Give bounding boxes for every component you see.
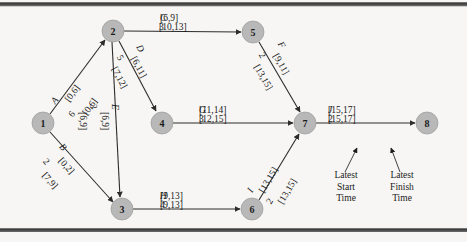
legend-latest-start-line2: Start xyxy=(322,182,370,194)
legend-latest-start-line1: Latest xyxy=(322,170,370,182)
edge-E-latest: [6,9] xyxy=(78,112,88,130)
latest-finish-pointer xyxy=(391,148,400,172)
edge-G-latest: [12,15] xyxy=(199,115,227,125)
node-5[interactable]: 5 xyxy=(242,21,264,43)
node-8-label: 8 xyxy=(425,118,430,129)
legend-latest-start-line3: Time xyxy=(322,193,370,205)
node-5-label: 5 xyxy=(251,27,256,38)
legend-latest-start: Latest Start Time xyxy=(322,170,370,205)
latest-start-pointer xyxy=(345,148,357,172)
edge-H-latest: [9,13] xyxy=(160,201,183,211)
legend-latest-finish-line1: Latest xyxy=(378,170,426,182)
node-1[interactable]: 1 xyxy=(32,112,54,134)
legend-pointer-group xyxy=(345,148,400,172)
node-4[interactable]: 4 xyxy=(151,112,173,134)
node-3-label: 3 xyxy=(120,204,125,215)
edge-E-label: E [6,9] 3 [6,9] xyxy=(71,92,109,110)
node-7-label: 7 xyxy=(303,118,308,129)
node-3[interactable]: 3 xyxy=(111,198,133,220)
edge-J-latest: [15,17] xyxy=(328,115,356,125)
node-7[interactable]: 7 xyxy=(294,112,316,134)
node-4-label: 4 xyxy=(160,118,165,129)
node-1-label: 1 xyxy=(41,118,46,129)
edge-E-activity: E xyxy=(110,104,120,122)
legend-latest-finish-line3: Time xyxy=(378,193,426,205)
legend-latest-finish-line2: Finish xyxy=(378,182,426,194)
legend-latest-finish: Latest Finish Time xyxy=(378,170,426,205)
node-8[interactable]: 8 xyxy=(416,112,438,134)
node-2[interactable]: 2 xyxy=(102,20,124,42)
node-2-label: 2 xyxy=(111,26,116,37)
edge-E-earliest: [6,9] xyxy=(100,112,110,130)
node-6-label: 6 xyxy=(250,204,255,215)
edge-E-duration: 3 xyxy=(88,104,98,122)
edge-C-latest: [10,13] xyxy=(159,23,187,33)
network-diagram-page: 1 2 3 4 5 6 7 xyxy=(0,0,467,242)
